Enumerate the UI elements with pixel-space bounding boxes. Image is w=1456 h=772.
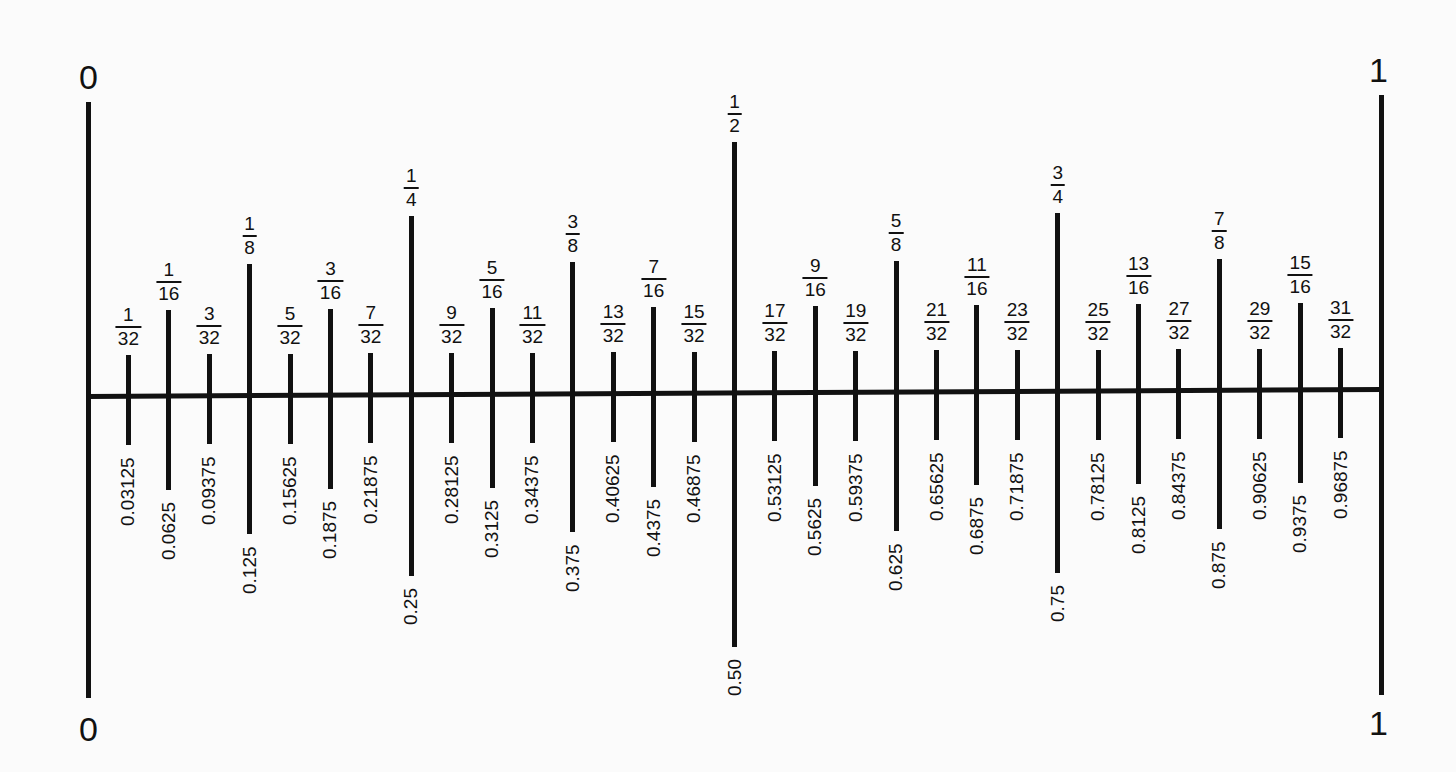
fraction-denominator: 2 [727, 115, 742, 136]
tick-mark [1298, 303, 1303, 483]
fraction-label: 34 [1050, 163, 1065, 207]
fraction-label: 1932 [843, 301, 868, 345]
fraction-numerator: 31 [1328, 298, 1353, 321]
decimal-label: 0.90625 [1249, 451, 1271, 520]
fraction-denominator: 32 [843, 324, 868, 345]
fraction-denominator: 32 [520, 326, 545, 347]
fraction-label: 716 [641, 257, 666, 301]
fraction-numerator: 3 [1050, 163, 1065, 186]
decimal-label: 0.3125 [481, 500, 503, 558]
fraction-denominator: 8 [1212, 232, 1227, 253]
tick-mark [1015, 350, 1020, 440]
tick-mark [1055, 213, 1060, 573]
fraction-numerator: 5 [889, 211, 904, 234]
decimal-label: 0.84375 [1168, 451, 1190, 520]
tick-mark [934, 350, 939, 440]
fraction-decimal-ruler: 0 0 1 1 1320.031251160.06253320.09375180… [0, 0, 1456, 772]
fraction-label: 38 [566, 212, 581, 256]
fraction-numerator: 3 [566, 212, 581, 235]
fraction-denominator: 32 [1005, 323, 1030, 344]
decimal-label: 0.03125 [117, 457, 139, 526]
tick-mark [166, 310, 171, 490]
decimal-label: 0.4375 [643, 499, 665, 557]
tick-mark [813, 306, 818, 486]
decimal-label: 0.375 [562, 545, 584, 593]
fraction-numerator: 23 [1005, 300, 1030, 323]
fraction-denominator: 16 [803, 279, 828, 300]
fraction-denominator: 32 [1166, 322, 1191, 343]
fraction-numerator: 13 [1126, 254, 1151, 277]
fraction-denominator: 32 [197, 327, 222, 348]
decimal-label: 0.6875 [966, 497, 988, 555]
tick-mark [328, 309, 333, 489]
decimal-label: 0.09375 [198, 457, 220, 526]
tick-mark [772, 351, 777, 441]
fraction-label: 132 [116, 305, 141, 349]
decimal-label: 0.59375 [845, 453, 867, 522]
tick-mark [207, 354, 212, 444]
tick-one [1379, 95, 1384, 695]
fraction-label: 1516 [1288, 253, 1313, 297]
fraction-numerator: 1 [116, 305, 141, 328]
tick-mark [1096, 350, 1101, 440]
decimal-label: 0.625 [885, 543, 907, 591]
fraction-label: 532 [277, 304, 302, 348]
fraction-denominator: 16 [479, 281, 504, 302]
fraction-denominator: 16 [641, 280, 666, 301]
fraction-numerator: 19 [843, 301, 868, 324]
fraction-label: 1132 [520, 303, 545, 347]
fraction-label: 316 [318, 259, 343, 303]
tick-mark [894, 261, 899, 531]
fraction-denominator: 32 [924, 323, 949, 344]
fraction-numerator: 7 [641, 257, 666, 280]
decimal-label: 0.28125 [441, 455, 463, 524]
fraction-label: 932 [439, 303, 464, 347]
fraction-denominator: 8 [242, 237, 257, 258]
tick-zero [86, 102, 91, 698]
fraction-numerator: 21 [924, 300, 949, 323]
fraction-denominator: 32 [116, 328, 141, 349]
tick-mark [651, 307, 656, 487]
fraction-label: 1316 [1126, 254, 1151, 298]
tick-mark [288, 354, 293, 444]
decimal-label: 0.21875 [360, 456, 382, 525]
fraction-label: 732 [358, 303, 383, 347]
decimal-label: 0.125 [239, 547, 261, 595]
fraction-denominator: 16 [318, 282, 343, 303]
one-label-bottom: 1 [1369, 706, 1388, 740]
tick-mark [732, 142, 737, 647]
fraction-denominator: 32 [762, 324, 787, 345]
fraction-denominator: 32 [682, 325, 707, 346]
fraction-denominator: 16 [1126, 277, 1151, 298]
decimal-label: 0.65625 [926, 453, 948, 522]
tick-mark [449, 353, 454, 443]
tick-mark [490, 308, 495, 488]
decimal-label: 0.15625 [279, 456, 301, 525]
fraction-label: 2132 [924, 300, 949, 344]
fraction-numerator: 1 [156, 260, 181, 283]
fraction-label: 58 [889, 211, 904, 255]
zero-label-bottom: 0 [79, 712, 98, 746]
decimal-label: 0.53125 [764, 454, 786, 523]
fraction-denominator: 32 [277, 327, 302, 348]
tick-mark [1257, 349, 1262, 439]
fraction-label: 3132 [1328, 298, 1353, 342]
fraction-denominator: 8 [566, 235, 581, 256]
fraction-numerator: 5 [277, 304, 302, 327]
tick-mark [368, 353, 373, 443]
fraction-numerator: 5 [479, 258, 504, 281]
fraction-numerator: 15 [682, 302, 707, 325]
fraction-numerator: 13 [601, 302, 626, 325]
decimal-label: 0.5625 [804, 498, 826, 556]
tick-mark [853, 351, 858, 441]
decimal-label: 0.50 [724, 659, 746, 696]
fraction-label: 12 [727, 92, 742, 136]
fraction-denominator: 16 [156, 283, 181, 304]
fraction-denominator: 16 [964, 278, 989, 299]
decimal-label: 0.1875 [319, 501, 341, 559]
fraction-label: 18 [242, 214, 257, 258]
tick-mark [570, 262, 575, 532]
fraction-numerator: 27 [1166, 299, 1191, 322]
tick-mark [1338, 348, 1343, 438]
decimal-label: 0.78125 [1087, 452, 1109, 521]
